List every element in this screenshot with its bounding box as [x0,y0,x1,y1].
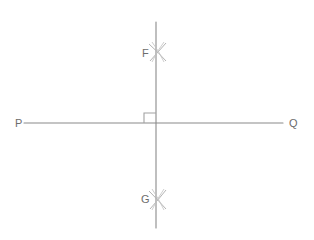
label-p: P [15,118,22,129]
geometry-figure: P Q F G [0,0,314,240]
arc-intersection-g-icon [149,189,166,210]
right-angle-square-icon [144,113,156,123]
geometry-diagram-canvas [0,0,314,240]
label-g: G [141,194,150,205]
label-q: Q [289,118,298,129]
arc-intersection-f-icon [149,42,166,62]
label-f: F [142,48,149,59]
